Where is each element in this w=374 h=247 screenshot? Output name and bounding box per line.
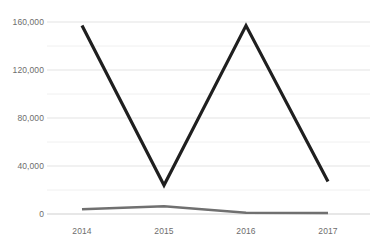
chart-plot-area <box>0 0 374 247</box>
series-lines <box>82 26 328 213</box>
series-line <box>82 26 328 186</box>
series-line <box>82 206 328 213</box>
line-chart: 160,000 120,000 80,000 40,000 0 2014 201… <box>0 0 374 247</box>
